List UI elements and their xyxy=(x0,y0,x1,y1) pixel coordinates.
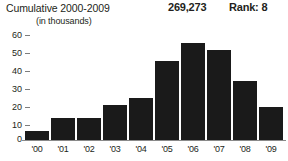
x-tick-label: '08 xyxy=(232,143,258,155)
x-axis-line xyxy=(22,140,286,141)
bars-layer xyxy=(0,0,288,161)
bar xyxy=(103,105,127,140)
bar xyxy=(155,61,179,140)
x-tick-label: '00 xyxy=(24,143,50,155)
x-tick-label: '06 xyxy=(180,143,206,155)
bar xyxy=(129,98,153,140)
bar xyxy=(25,131,49,140)
bar xyxy=(207,50,231,140)
bar xyxy=(51,118,75,140)
bar xyxy=(233,81,257,140)
x-tick-label: '03 xyxy=(102,143,128,155)
x-tick-label: '09 xyxy=(258,143,284,155)
plot-area: 60 50 40 30 20 10 xyxy=(0,0,288,161)
x-axis: '00 '01 '02 '03 '04 '05 '06 '07 '08 '09 xyxy=(0,143,288,157)
x-tick-label: '02 xyxy=(76,143,102,155)
bar xyxy=(259,107,283,140)
bar xyxy=(77,118,101,140)
x-tick-label: '01 xyxy=(50,143,76,155)
cumulative-bar-chart-panel: Cumulative 2000-2009 269,273 Rank: 8 (in… xyxy=(0,0,288,161)
x-tick-label: '05 xyxy=(154,143,180,155)
bar xyxy=(181,43,205,140)
x-tick-label: '07 xyxy=(206,143,232,155)
x-tick-label: '04 xyxy=(128,143,154,155)
